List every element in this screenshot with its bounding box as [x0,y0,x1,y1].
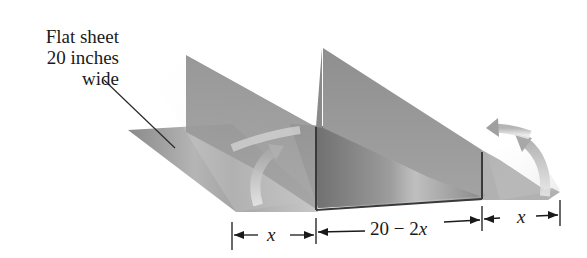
callout-line-3: wide [18,68,119,89]
dimension-left-label: x [267,225,275,245]
channel-back-wall [316,48,322,128]
dim-right-var: x [517,206,525,227]
dim-middle-num: 20 − 2 [370,218,419,239]
dim-middle-var: x [419,218,427,239]
dimension-right-label: x [517,207,525,227]
sheet-callout-label: Flat sheet 20 inches wide [18,26,119,89]
callout-line-2: 20 inches [18,47,119,68]
dim-left-var: x [267,224,275,245]
callout-line-1: Flat sheet [18,26,119,47]
dimension-middle-label: 20 − 2x [370,219,427,239]
